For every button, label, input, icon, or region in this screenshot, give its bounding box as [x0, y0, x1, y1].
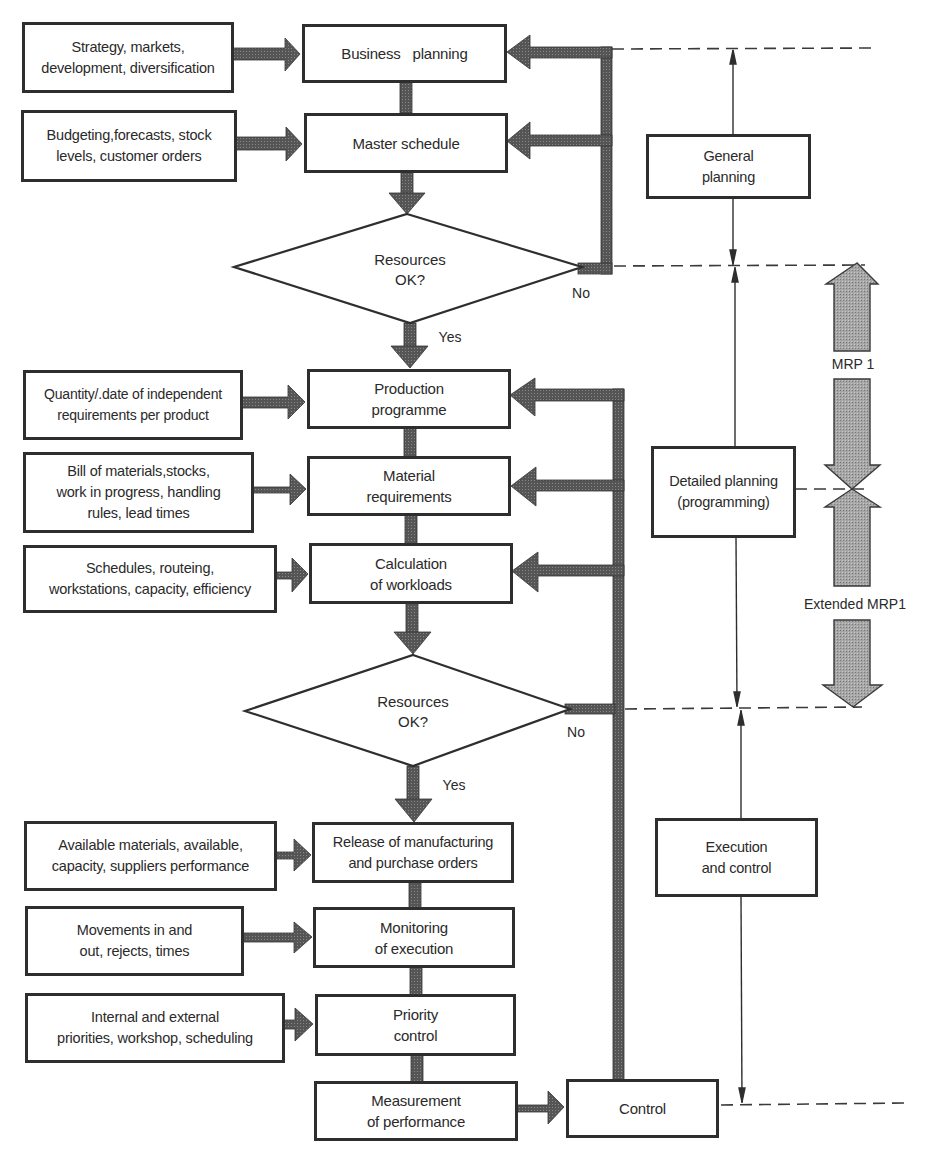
input-box-movements: Movements in and out, rejects, times [25, 906, 244, 976]
input-box-available-materials: Available materials, available, capacity… [24, 821, 277, 891]
step-calculation-of-workloads: Calculation of workloads [309, 543, 513, 604]
step-release-of-orders: Release of manufacturing and purchase or… [312, 822, 514, 883]
input-box-quantity: Quantity/.date of independent requiremen… [23, 370, 243, 440]
step-production-programme: Production programme [307, 369, 511, 429]
phase-execution-and-control: Execution and control [655, 818, 818, 897]
extended-mrp1-label: Extended MRP1 [790, 594, 920, 614]
mrp1-label: MRP 1 [818, 354, 888, 374]
mrp1-scope-arrow [823, 263, 882, 707]
phase-detailed-planning: Detailed planning (programming) [651, 446, 796, 538]
decision-1-no-label: No [566, 283, 596, 303]
input-box-bill-of-materials: Bill of materials,stocks, work in progre… [23, 452, 254, 533]
phase-general-planning: General planning [646, 134, 811, 199]
input-box-budgeting: Budgeting,forecasts, stock levels, custo… [21, 110, 237, 182]
decision-2-text: Resources OK? [363, 692, 463, 732]
input-box-internal-priorities: Internal and external priorities, worksh… [25, 993, 285, 1063]
input-box-strategy: Strategy, markets, development, diversif… [22, 22, 234, 93]
feedback-loop-general [507, 35, 612, 274]
phase-span-lines [730, 50, 745, 1103]
step-monitoring-of-execution: Monitoring of execution [313, 907, 515, 968]
input-box-schedules: Schedules, routeing, workstations, capac… [23, 545, 277, 613]
step-business-planning: Business planning [302, 24, 507, 83]
decision-2-no-label: No [561, 722, 591, 742]
step-master-schedule: Master schedule [304, 113, 508, 173]
step-priority-control: Priority control [315, 994, 516, 1056]
decision-1-text: Resources OK? [360, 250, 460, 290]
step-control: Control [566, 1079, 719, 1138]
step-material-requirements: Material requirements [307, 456, 511, 516]
step-measurement-of-performance: Measurement of performance [314, 1081, 518, 1141]
decision-2-yes-label: Yes [436, 775, 472, 795]
decision-1-yes-label: Yes [432, 327, 468, 347]
